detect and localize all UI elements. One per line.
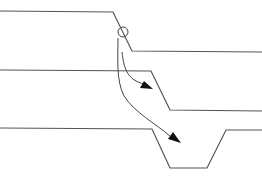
arrowhead-middle bbox=[140, 81, 153, 89]
profile-bottom bbox=[0, 128, 262, 168]
arrowhead-bottom bbox=[168, 132, 181, 143]
profile-top bbox=[0, 11, 262, 52]
diagram-canvas bbox=[0, 0, 262, 176]
arrow-to-middle bbox=[122, 52, 144, 84]
